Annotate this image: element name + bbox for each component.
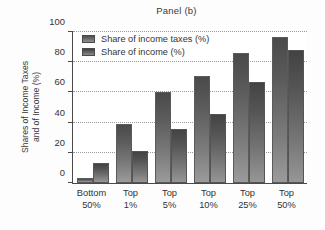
x-axis-label-line1: Top: [162, 188, 177, 198]
chart-legend: Share of income taxes (%) Share of incom…: [82, 34, 209, 57]
chart-figure: Panel (b) Shares of Income Taxes and of …: [0, 0, 325, 230]
bar: [116, 124, 132, 183]
bar: [132, 151, 148, 183]
bar: [155, 92, 171, 183]
x-axis-label-line1: Top: [279, 188, 294, 198]
bar: [194, 76, 210, 183]
x-axis-label-line1: Top: [240, 188, 255, 198]
x-axis-label: Top1%: [111, 188, 150, 211]
y-tick-label: 60: [55, 76, 65, 87]
y-tick-label: 100: [49, 16, 65, 27]
x-axis-label-line1: Bottom: [77, 188, 106, 198]
y-axis-title-line2: and of Income (%): [31, 61, 42, 153]
legend-item-income-taxes: Share of income taxes (%): [82, 34, 209, 44]
y-tick-label: 80: [55, 46, 65, 57]
x-axis-labels: Bottom50%Top1%Top5%Top10%Top25%Top50%: [72, 188, 306, 211]
legend-label: Share of income (%): [101, 47, 185, 57]
y-tick-label: 20: [55, 136, 65, 147]
x-axis-label-line2: 25%: [228, 200, 267, 212]
bar-group: [268, 32, 307, 183]
x-axis-label: Top25%: [228, 188, 267, 211]
x-axis-label-line2: 50%: [72, 200, 111, 212]
x-axis-label-line2: 5%: [150, 200, 189, 212]
x-axis-label: Top50%: [267, 188, 306, 211]
bar: [272, 37, 288, 183]
bar: [210, 114, 226, 183]
legend-swatch-icon: [82, 35, 95, 43]
x-axis-label: Top10%: [189, 188, 228, 211]
bar: [171, 129, 187, 183]
y-tick-label: 40: [55, 106, 65, 117]
bar: [249, 82, 265, 183]
bar: [233, 53, 249, 183]
x-axis-label: Top5%: [150, 188, 189, 211]
y-tick-label: 0: [60, 167, 65, 178]
bar: [288, 50, 304, 183]
x-axis-label-line1: Top: [201, 188, 216, 198]
x-axis-label-line2: 10%: [189, 200, 228, 212]
bar: [93, 163, 109, 183]
y-axis-title: Shares of Income Taxes and of Income (%): [14, 28, 48, 186]
bar: [77, 178, 93, 183]
bar-group: [229, 32, 268, 183]
legend-label: Share of income taxes (%): [101, 34, 209, 44]
x-axis-label-line2: 1%: [111, 200, 150, 212]
chart-title: Panel (b): [0, 5, 325, 16]
legend-item-income: Share of income (%): [82, 47, 209, 57]
y-axis-title-line1: Shares of Income Taxes: [20, 61, 30, 153]
x-axis-label: Bottom50%: [72, 188, 111, 211]
legend-swatch-icon: [82, 48, 95, 56]
x-axis-label-line1: Top: [123, 188, 138, 198]
x-axis-label-line2: 50%: [267, 200, 306, 212]
